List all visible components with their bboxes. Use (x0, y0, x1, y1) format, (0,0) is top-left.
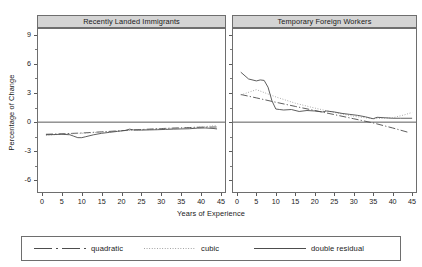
x-tick-label: 30 (154, 198, 168, 206)
y-tick-mark-minor (230, 108, 232, 109)
x-tick-label: 25 (134, 198, 148, 206)
x-tick-label: 10 (75, 198, 89, 206)
x-tick-label: 5 (55, 198, 69, 206)
y-tick-label: 0 (15, 118, 31, 126)
panel-series-svg-1 (233, 29, 416, 192)
y-tick-mark-minor (230, 78, 232, 79)
y-tick-mark (229, 93, 232, 94)
y-tick-mark (34, 122, 37, 123)
x-tick-label: 25 (327, 198, 341, 206)
x-tick-label: 10 (269, 198, 283, 206)
legend-swatch-solid-icon (254, 244, 306, 253)
y-tick-label: 6 (15, 60, 31, 68)
y-tick-mark-minor (35, 137, 37, 138)
panel-title-0: Recently Landed Immigrants (37, 15, 226, 28)
x-tick-mark (141, 193, 142, 196)
y-tick-mark (229, 180, 232, 181)
x-tick-mark (295, 193, 296, 196)
y-tick-mark (34, 151, 37, 152)
legend-item-quadratic: quadratic (34, 237, 123, 260)
x-tick-mark (122, 193, 123, 196)
x-tick-label: 40 (386, 198, 400, 206)
x-tick-mark (237, 193, 238, 196)
x-tick-mark (82, 193, 83, 196)
series-line-quadratic (241, 94, 408, 132)
y-tick-mark (34, 93, 37, 94)
y-tick-mark (229, 151, 232, 152)
x-tick-label: 45 (214, 198, 228, 206)
x-tick-label: 0 (230, 198, 244, 206)
x-tick-mark (354, 193, 355, 196)
x-tick-mark (161, 193, 162, 196)
x-tick-label: 30 (347, 198, 361, 206)
series-line-quadratic (46, 127, 217, 134)
panel-plot-area-1 (232, 28, 417, 193)
x-tick-mark (276, 193, 277, 196)
y-tick-mark-minor (35, 108, 37, 109)
x-tick-mark (393, 193, 394, 196)
legend-label: double residual (311, 244, 364, 253)
chart-figure: Recently Landed Immigrants05101520253035… (0, 0, 422, 267)
legend-swatch-dash-dot-icon (34, 244, 86, 253)
legend-label: cubic (201, 244, 219, 253)
x-tick-label: 20 (115, 198, 129, 206)
y-tick-mark (34, 64, 37, 65)
legend-label: quadratic (91, 244, 123, 253)
x-axis-title: Years of Experience (0, 209, 422, 218)
x-tick-label: 20 (308, 198, 322, 206)
y-tick-label: -3 (15, 147, 31, 155)
y-axis-title: Percentage of Change (7, 48, 16, 178)
series-line-cubic (241, 90, 412, 119)
legend-item-double-residual: double residual (254, 237, 364, 260)
y-tick-mark-minor (35, 166, 37, 167)
x-tick-label: 35 (174, 198, 188, 206)
x-tick-mark (201, 193, 202, 196)
x-tick-mark (315, 193, 316, 196)
panel-title-1: Temporary Foreign Workers (232, 15, 417, 28)
panel-series-svg-0 (38, 29, 225, 192)
x-tick-mark (181, 193, 182, 196)
y-tick-label: -6 (15, 176, 31, 184)
x-tick-mark (102, 193, 103, 196)
x-tick-label: 45 (405, 198, 419, 206)
x-tick-mark (412, 193, 413, 196)
x-tick-mark (256, 193, 257, 196)
legend-item-cubic: cubic (144, 237, 219, 260)
y-tick-mark (34, 180, 37, 181)
y-tick-mark-minor (230, 137, 232, 138)
legend-swatch-dotted-icon (144, 244, 196, 253)
x-tick-mark (334, 193, 335, 196)
y-tick-mark (34, 35, 37, 36)
y-tick-mark-minor (35, 49, 37, 50)
y-tick-mark-minor (230, 166, 232, 167)
x-tick-mark (221, 193, 222, 196)
y-tick-label: 9 (15, 31, 31, 39)
x-tick-label: 35 (366, 198, 380, 206)
y-tick-mark-minor (35, 78, 37, 79)
series-line-double-residual (241, 72, 412, 119)
series-line-double-residual (46, 128, 217, 138)
x-tick-mark (373, 193, 374, 196)
y-tick-mark (229, 35, 232, 36)
y-tick-mark (229, 122, 232, 123)
x-tick-label: 15 (288, 198, 302, 206)
x-tick-label: 15 (95, 198, 109, 206)
x-tick-label: 0 (35, 198, 49, 206)
panel-plot-area-0 (37, 28, 226, 193)
legend: quadraticcubicdouble residual (21, 236, 401, 261)
y-tick-mark-minor (230, 49, 232, 50)
y-tick-mark (229, 64, 232, 65)
x-tick-mark (62, 193, 63, 196)
x-tick-label: 5 (249, 198, 263, 206)
x-tick-mark (42, 193, 43, 196)
x-tick-label: 40 (194, 198, 208, 206)
y-tick-label: 3 (15, 89, 31, 97)
